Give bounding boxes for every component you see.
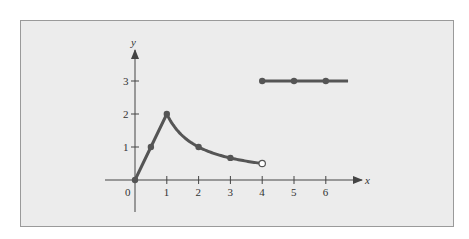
closed-point <box>195 144 201 150</box>
closed-point <box>259 78 265 84</box>
closed-point <box>323 78 329 84</box>
closed-point <box>132 177 138 183</box>
x-tick-label: 0 <box>125 186 131 198</box>
closed-point <box>227 155 233 161</box>
x-axis-label: x <box>364 174 370 186</box>
x-tick-label: 3 <box>227 186 233 198</box>
x-tick-label: 5 <box>291 186 297 198</box>
y-tick-label: 3 <box>123 75 129 87</box>
chart-plot: 0123456123 x y <box>0 0 469 239</box>
closed-point <box>148 144 154 150</box>
x-tick-label: 1 <box>164 186 170 198</box>
data-points <box>132 78 329 183</box>
closed-point <box>291 78 297 84</box>
x-tick-label: 2 <box>196 186 202 198</box>
open-point <box>259 160 265 166</box>
closed-point <box>164 111 170 117</box>
x-tick-label: 6 <box>323 186 329 198</box>
series-piece-2 <box>167 114 262 164</box>
y-tick-label: 1 <box>123 141 129 153</box>
y-tick-label: 2 <box>123 108 129 120</box>
x-tick-label: 4 <box>259 186 265 198</box>
curves <box>135 81 348 180</box>
y-axis-label: y <box>130 36 136 48</box>
